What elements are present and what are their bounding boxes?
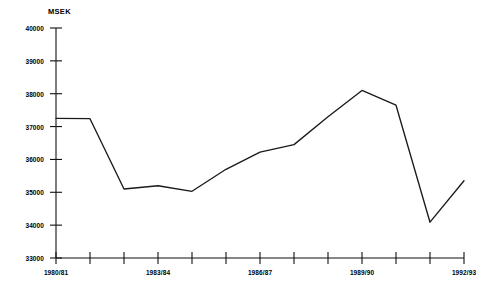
axis-lines <box>56 28 464 258</box>
line-chart: MSEK 40000390003800037000360003500034000… <box>0 0 484 290</box>
plot-area <box>0 0 484 290</box>
data-series-line <box>56 90 464 222</box>
